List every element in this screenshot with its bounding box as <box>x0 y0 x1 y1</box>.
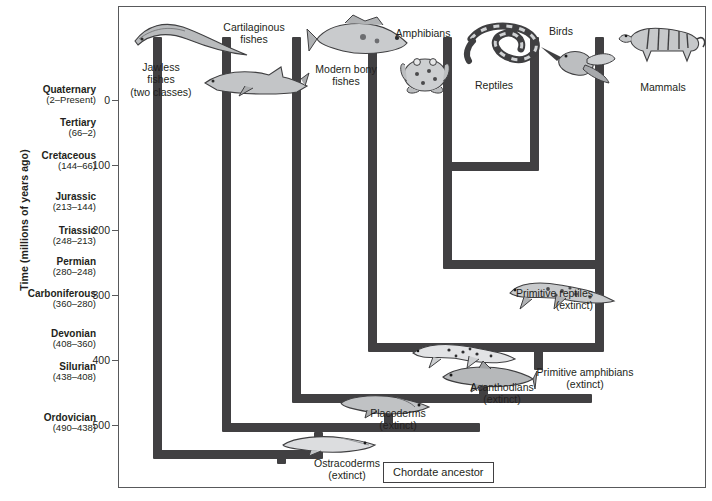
tip-label-birds: Birds <box>515 25 607 37</box>
branch-reptile-bird-horizontal <box>443 162 539 171</box>
tip-line-1: Mammals <box>615 81 711 93</box>
tip-line-1: Birds <box>515 25 607 37</box>
tick-label-0: 0 <box>76 94 110 106</box>
tip-line-1: Amphibians <box>373 27 473 39</box>
extinct-note: (extinct) <box>463 299 593 311</box>
tick-label-500: 500 <box>76 419 110 431</box>
tip-line-1: Reptiles <box>447 79 541 91</box>
period-range: (408–360) <box>2 339 96 350</box>
branch-archosaur-stem <box>443 162 452 265</box>
ostracoderm-illustration <box>281 429 377 457</box>
extinct-name: Acanthodians <box>449 381 555 393</box>
tip-label-reptiles: Reptiles <box>447 79 541 91</box>
label-primitive-reptiles: Primitive reptiles (extinct) <box>463 287 593 312</box>
tip-line-2: fishes <box>115 73 207 85</box>
period-range: (438–408) <box>2 372 96 383</box>
label-placoderms: Placoderms (extinct) <box>345 407 451 432</box>
tip-line-1: Modern bony <box>293 63 399 75</box>
period-range: (213–144) <box>2 202 96 213</box>
tip-label-cartilaginous-fishes: Cartilaginous fishes <box>199 21 309 46</box>
chordate-ancestor-label: Chordate ancestor <box>393 466 484 478</box>
tick-label-400: 400 <box>76 354 110 366</box>
mammal-illustration <box>617 15 707 69</box>
chordate-ancestor-box: Chordate ancestor <box>383 462 494 483</box>
bird-illustration <box>539 37 617 87</box>
tip-line-2: fishes <box>293 75 399 87</box>
period-jurassic: Jurassic (213–144) <box>2 191 96 213</box>
tip-label-modern-bony-fishes: Modern bony fishes <box>293 63 399 88</box>
tip-line-1: Cartilaginous <box>199 21 309 33</box>
extinct-note: (extinct) <box>345 419 451 431</box>
period-tertiary: Tertiary (66–2) <box>2 117 96 139</box>
tick-label-200: 200 <box>76 224 110 236</box>
amphibian-illustration <box>395 47 455 97</box>
label-acanthodians: Acanthodians (extinct) <box>449 381 555 406</box>
period-range: (66–2) <box>2 128 96 139</box>
period-devonian: Devonian (408–360) <box>2 328 96 350</box>
branch-amniote-horizontal <box>443 260 604 269</box>
tip-label-mammals: Mammals <box>615 81 711 93</box>
period-permian: Permian (280–248) <box>2 256 96 278</box>
figure-root: Time (millions of years ago) Quaternary … <box>0 0 712 501</box>
tick-label-100: 100 <box>76 159 110 171</box>
tip-label-amphibians: Amphibians <box>373 27 473 39</box>
extinct-note: (extinct) <box>449 393 555 405</box>
tick-label-300: 300 <box>76 289 110 301</box>
tip-line-2: fishes <box>199 33 309 45</box>
extinct-name: Primitive amphibians <box>515 366 655 378</box>
extinct-name: Primitive reptiles <box>463 287 593 299</box>
period-range: (248–213) <box>2 236 96 247</box>
plot-frame: Jawless fishes (two classes) Cartilagino… <box>118 6 706 488</box>
extinct-name: Placoderms <box>345 407 451 419</box>
tip-line-3: (two classes) <box>115 86 207 98</box>
period-range: (280–248) <box>2 267 96 278</box>
branch-jawless-fishes <box>153 37 162 455</box>
tip-line-1: Jawless <box>115 61 207 73</box>
tip-label-jawless-fishes: Jawless fishes (two classes) <box>115 61 207 98</box>
